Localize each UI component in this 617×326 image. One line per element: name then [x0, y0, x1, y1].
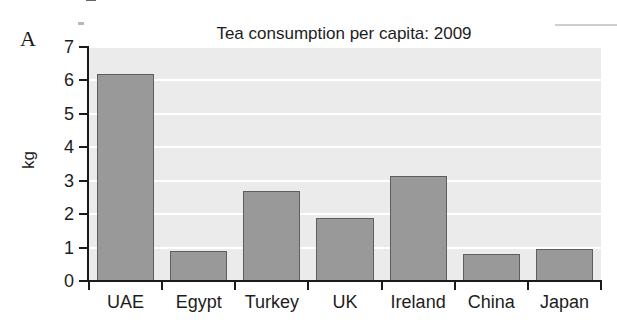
bar-china [463, 254, 520, 281]
bar-turkey [243, 191, 300, 281]
bar-uk [316, 218, 373, 282]
bars-group [89, 47, 601, 281]
x-tick-3 [307, 281, 309, 290]
y-tick-7 [79, 46, 88, 48]
y-tick-label-2: 2 [46, 205, 74, 223]
x-tick-label-ireland: Ireland [382, 291, 455, 313]
panel-label-a: A [20, 28, 36, 50]
x-tick-7 [600, 281, 602, 290]
y-tick-label-7: 7 [46, 38, 74, 56]
y-tick-0 [79, 280, 88, 282]
y-axis-label: kg [19, 130, 39, 190]
x-tick-label-japan: Japan [528, 291, 601, 313]
bar-ireland [390, 176, 447, 281]
chart-title: Tea consumption per capita: 2009 [88, 24, 600, 44]
y-tick-1 [79, 247, 88, 249]
bar-uae [97, 74, 154, 281]
x-tick-6 [527, 281, 529, 290]
y-tick-label-3: 3 [46, 172, 74, 190]
bar-japan [536, 249, 593, 281]
x-tick-4 [381, 281, 383, 290]
y-tick-5 [79, 113, 88, 115]
y-tick-label-5: 5 [46, 105, 74, 123]
scan-artifact-top [86, 0, 96, 1]
y-tick-3 [79, 180, 88, 182]
bar-egypt [170, 251, 227, 281]
x-tick-5 [454, 281, 456, 290]
x-tick-label-uae: UAE [89, 291, 162, 313]
x-tick-label-china: China [455, 291, 528, 313]
y-tick-label-1: 1 [46, 239, 74, 257]
x-tick-label-uk: UK [308, 291, 381, 313]
y-tick-label-4: 4 [46, 138, 74, 156]
y-tick-label-6: 6 [46, 71, 74, 89]
figure-container: A Tea consumption per capita: 2009 kg 01… [0, 0, 617, 326]
x-tick-1 [161, 281, 163, 290]
scan-artifact-secondary [78, 22, 84, 25]
plot-panel [89, 47, 601, 281]
y-tick-4 [79, 146, 88, 148]
x-axis-line [87, 280, 602, 282]
y-tick-6 [79, 79, 88, 81]
y-tick-label-0: 0 [46, 272, 74, 290]
y-tick-2 [79, 213, 88, 215]
x-tick-label-egypt: Egypt [162, 291, 235, 313]
x-tick-0 [88, 281, 90, 290]
x-tick-label-turkey: Turkey [235, 291, 308, 313]
x-tick-2 [234, 281, 236, 290]
